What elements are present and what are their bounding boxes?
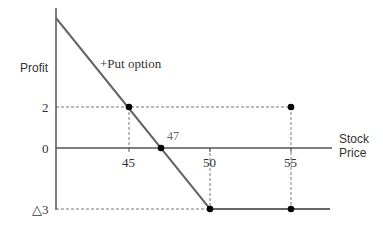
x-tick-45: 45 xyxy=(122,155,135,170)
payoff-line xyxy=(56,18,330,209)
x-tick-50: 50 xyxy=(203,155,216,170)
put-option-payoff-chart: Profit +Put option 47 2 0 △3 45 50 55 St… xyxy=(0,0,383,229)
y-tick-0: 0 xyxy=(42,141,49,156)
x-tick-55: 55 xyxy=(284,155,297,170)
series-label: +Put option xyxy=(100,56,162,71)
breakeven-label: 47 xyxy=(167,129,179,143)
guide-lines xyxy=(56,107,291,209)
x-axis-label-line2: Price xyxy=(339,146,367,160)
y-tick-minus3: △3 xyxy=(32,202,49,217)
y-axis-label: Profit xyxy=(20,61,49,75)
y-tick-2: 2 xyxy=(42,100,49,115)
x-axis-label-line1: Stock xyxy=(339,132,370,146)
